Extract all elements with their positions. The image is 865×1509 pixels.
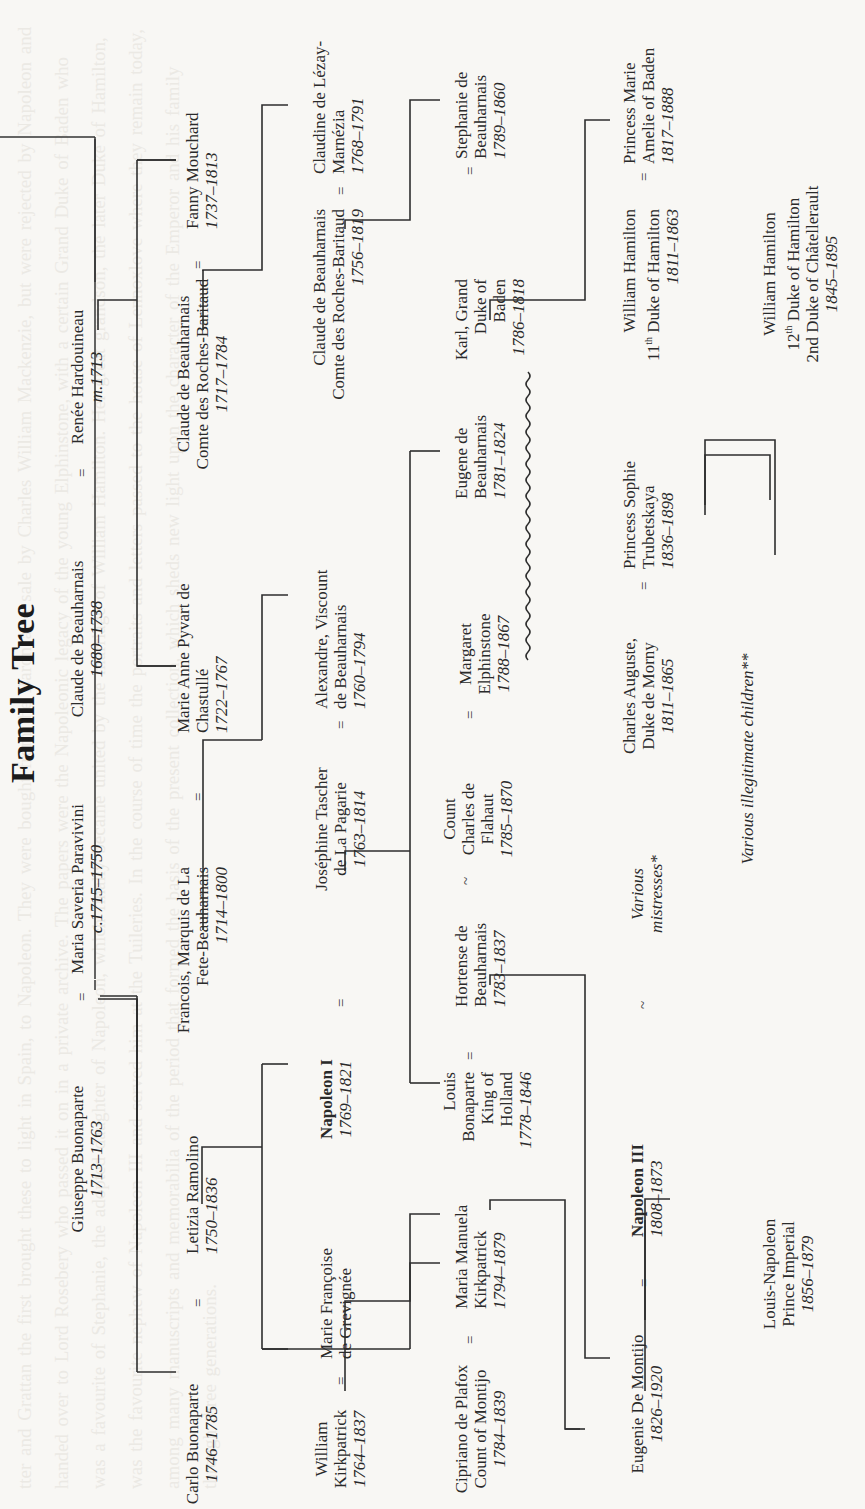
- person-dates: 1794–1879: [490, 1189, 509, 1309]
- liaison-symbol: ~: [635, 1001, 652, 1009]
- person-name-line2: Comte des Roches-Baritaud: [193, 269, 212, 479]
- document-page: tter and Grattan the first brought these…: [0, 0, 865, 1509]
- person-name-line2: Count of Montijo: [471, 1359, 490, 1499]
- person-dates: 1781–1824: [490, 389, 509, 499]
- person-claude-comte-1717: Claude de Beauharnais Comte des Roches-B…: [174, 269, 231, 479]
- person-karl-grand-duke-of-baden: Karl, Grand Duke of Baden 1786–1818: [452, 279, 528, 379]
- person-name: Fanny Mouchard: [183, 89, 202, 229]
- person-dates: 1784–1839: [490, 1359, 509, 1499]
- person-dates: 1836–1898: [658, 419, 677, 569]
- person-dates: 1769–1821: [336, 1049, 355, 1149]
- note-various-illegitimate-children: Various illegitimate children**: [738, 619, 757, 899]
- person-name-line2: Duke de Morny: [639, 621, 658, 771]
- marriage-symbol: =: [462, 167, 479, 175]
- person-name-line2: Kirkpatrick: [471, 1189, 490, 1309]
- person-name-line2: de La Pagarie: [331, 749, 350, 909]
- person-name: Hortense de: [452, 897, 471, 1007]
- person-napoleon-i: Napoleon I 1769–1821: [317, 1049, 355, 1149]
- person-dates: 1722–1767: [212, 553, 231, 733]
- person-name-line2: Duke of: [471, 279, 490, 379]
- person-dates: 1783–1837: [490, 897, 509, 1007]
- person-louis-napoleon-prince-imperial: Louis-Napoleon Prince Imperial 1856–1879: [760, 1209, 817, 1339]
- person-claude-de-beauharnais-1680: Claude de Beauharnais 1680–1738: [68, 554, 106, 724]
- person-dates: 1714–1800: [212, 867, 231, 1043]
- person-name: Alexandre, Viscount: [312, 539, 331, 709]
- person-dates: 1788–1867: [494, 599, 513, 709]
- person-name: Claude de Beauharnais: [310, 209, 329, 419]
- person-william-hamilton-11th-duke: William Hamilton 11th Duke of Hamilton 1…: [620, 209, 682, 389]
- marriage-symbol: =: [333, 187, 350, 195]
- person-dates: 1845–1895: [822, 169, 841, 379]
- person-name: Francois, Marquis de La: [174, 867, 193, 1043]
- person-name-line2: Comte des Roches-Baritaud: [329, 209, 348, 419]
- person-name: William Hamilton: [620, 209, 639, 389]
- person-name: Charles Auguste,: [620, 621, 639, 771]
- person-dates: 1713–1763: [87, 1079, 106, 1239]
- person-stephanie-de-beauharnais: Stephanie de Beauharnais 1789–1860: [452, 39, 509, 159]
- person-name: Marie Anne Pyvart de: [174, 553, 193, 733]
- person-dates: 1750–1836: [202, 1124, 221, 1254]
- person-giuseppe-buonaparte: Giuseppe Buonaparte 1713–1763: [68, 1079, 106, 1239]
- person-name-line2: Prince Imperial: [779, 1209, 798, 1339]
- person-name-line2: Beauharnais: [471, 897, 490, 1007]
- marriage-symbol: =: [333, 999, 350, 1007]
- person-francois-marquis: Francois, Marquis de La Fete-Beauharnais…: [174, 867, 231, 1043]
- page-title: Family Tree: [4, 593, 42, 793]
- person-name-line2: Bonaparte: [459, 1072, 478, 1154]
- marriage-symbol: =: [333, 721, 350, 729]
- person-napoleon-iii: Napoleon III 1808–1873: [628, 1117, 666, 1237]
- person-name-line2: Amelie of Baden: [639, 14, 658, 164]
- person-name: Princess Sophie: [620, 419, 639, 569]
- person-name: Eugenie De Montijo: [628, 1319, 647, 1489]
- note-line1: Various: [628, 839, 647, 949]
- person-dates: 1717–1784: [212, 269, 231, 479]
- person-name: Carlo Buonaparte: [183, 1379, 202, 1509]
- person-name: Joséphine Tascher: [312, 749, 331, 909]
- person-name-line3: Flahaut: [478, 769, 497, 869]
- marriage-symbol: =: [190, 793, 207, 801]
- person-name: Renée Hardouineau: [68, 307, 87, 447]
- marriage-symbol: =: [636, 582, 653, 590]
- person-dates: 1811–1863: [663, 209, 682, 389]
- person-name-line2: Beauharnais: [471, 39, 490, 159]
- person-name-line2: de Beauharnais: [331, 539, 350, 709]
- person-dates: 1817–1888: [658, 14, 677, 164]
- person-dates: 1778–1846: [516, 1072, 535, 1154]
- person-count-charles-de-flahaut: Count Charles de Flahaut 1785–1870: [440, 769, 516, 869]
- person-name-line3: Baden: [490, 279, 509, 379]
- person-eugene-de-beauharnais: Eugene de Beauharnais 1781–1824: [452, 389, 509, 499]
- person-name-line2: Kirkpatrick: [331, 1399, 350, 1499]
- person-dates: c.1715–1750: [87, 789, 106, 989]
- person-dates: 1763–1814: [350, 749, 369, 909]
- person-dates: 1785–1870: [497, 769, 516, 869]
- person-name-line2: Trubetskaya: [639, 419, 658, 569]
- person-william-hamilton-12th-duke: William Hamilton 12th Duke of Hamilton 2…: [760, 169, 841, 379]
- person-dates: 1760–1794: [350, 539, 369, 709]
- person-name: Claudine de Lézay-: [310, 4, 329, 174]
- marriage-symbol: =: [190, 1299, 207, 1307]
- person-dates: 1746–1785: [202, 1379, 221, 1509]
- person-dates: m.1713: [87, 307, 106, 447]
- marriage-symbol: =: [462, 1052, 479, 1060]
- person-dates: 1768–1791: [348, 4, 367, 174]
- person-name: Karl, Grand: [452, 279, 471, 379]
- marriage-symbol: =: [462, 1336, 479, 1344]
- person-name: Louis: [440, 1072, 459, 1154]
- person-hortense-de-beauharnais: Hortense de Beauharnais 1783–1837: [452, 897, 509, 1007]
- person-princess-marie-amelie-of-baden: Princess Marie Amelie of Baden 1817–1888: [620, 14, 677, 164]
- person-claude-comte-1756: Claude de Beauharnais Comte des Roches-B…: [310, 209, 367, 419]
- person-marie-francoise-grevignee: Marie Françoise de Grevignée: [317, 1219, 355, 1359]
- person-name: Louis-Napoleon: [760, 1209, 779, 1339]
- person-name: Claude de Beauharnais: [174, 269, 193, 479]
- marriage-symbol: =: [190, 261, 207, 269]
- person-eugenie-de-montijo: Eugenie De Montijo 1826–1920: [628, 1319, 666, 1489]
- person-name: Letizia Ramolino: [183, 1124, 202, 1254]
- person-name: William Hamilton: [760, 169, 779, 379]
- person-name: Margaret: [456, 599, 475, 709]
- note-various-mistresses: Various mistresses*: [628, 839, 666, 949]
- liaison-symbol: ~: [458, 877, 475, 885]
- person-dates: 1856–1879: [798, 1209, 817, 1339]
- person-letizia-ramolino: Letizia Ramolino 1750–1836: [183, 1124, 221, 1254]
- person-alexandre-viscount: Alexandre, Viscount de Beauharnais 1760–…: [312, 539, 369, 709]
- person-charles-auguste-duke-de-morny: Charles Auguste, Duke de Morny 1811–1865: [620, 621, 677, 771]
